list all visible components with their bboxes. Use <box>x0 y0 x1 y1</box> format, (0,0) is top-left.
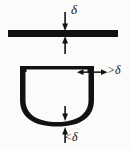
label-greater-than-delta: >δ <box>107 64 121 76</box>
u-channel-corner-left <box>20 66 27 72</box>
u-channel-inner-cavity <box>26 70 89 123</box>
u-channel-top-rim <box>20 66 94 68</box>
label-delta-thickness: δ <box>71 3 77 16</box>
technical-diagram-figure: δ >δ <δ <box>0 0 130 149</box>
u-channel-group <box>20 66 94 127</box>
u-channel-corner-right <box>88 66 95 72</box>
label-less-than-delta: <δ <box>64 131 78 143</box>
delta-arrow-lower-head <box>62 36 68 44</box>
delta-arrow-upper-head <box>62 24 68 32</box>
flat-plate-group <box>8 30 118 37</box>
flat-plate-shape <box>8 30 118 37</box>
